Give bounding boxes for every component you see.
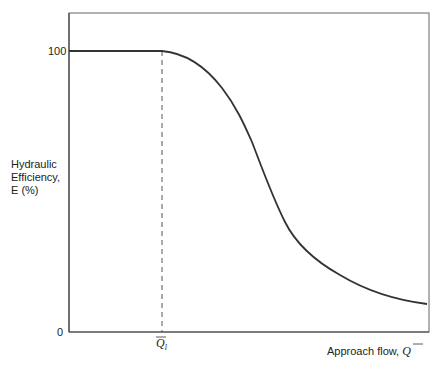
y-axis-label-line3: E (%) (11, 184, 60, 197)
plot-frame (69, 13, 429, 332)
y-axis-label: Hydraulic Efficiency, E (%) (11, 158, 60, 197)
x-axis-label-q: Q (402, 344, 411, 358)
y-tick-100: 100 (48, 45, 66, 58)
x-tick-q: Q (156, 336, 165, 350)
x-tick-sub: l (165, 343, 167, 352)
y-tick-0: 0 (57, 326, 63, 339)
x-axis-label: Approach flow, Q (327, 345, 411, 358)
y-axis-label-line2: Efficiency, (11, 171, 60, 184)
efficiency-curve (69, 51, 427, 304)
x-axis-label-text: Approach flow, (327, 345, 402, 357)
y-axis-label-line1: Hydraulic (11, 158, 60, 171)
x-tick-q-limit: Ql (156, 337, 167, 354)
